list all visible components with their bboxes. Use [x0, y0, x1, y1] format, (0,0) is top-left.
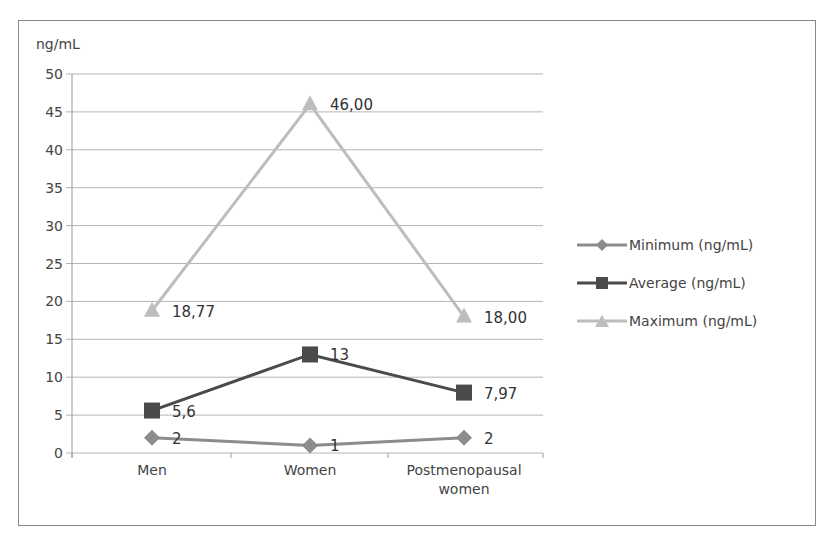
y-tick-label: 0	[54, 445, 63, 461]
square-marker-icon	[456, 385, 472, 401]
legend-item-average: Average (ng/mL)	[577, 264, 757, 302]
y-tick-label: 50	[45, 66, 63, 82]
data-label: 2	[172, 430, 182, 448]
legend-item-minimum: Minimum (ng/mL)	[577, 226, 757, 264]
chart-legend: Minimum (ng/mL) Average (ng/mL) Maximum …	[577, 226, 757, 340]
y-tick-label: 10	[45, 369, 63, 385]
legend-label: Minimum (ng/mL)	[629, 237, 753, 253]
triangle-marker-icon	[577, 314, 627, 328]
y-tick-label: 40	[45, 142, 63, 158]
data-label: 1	[330, 437, 340, 455]
x-tick-women: Women	[270, 461, 350, 480]
square-marker-icon	[302, 346, 318, 362]
y-tick-label: 25	[45, 256, 63, 272]
series-line	[152, 354, 464, 410]
data-label: 2	[484, 430, 494, 448]
data-label: 46,00	[330, 96, 373, 114]
x-tick-postmenopausal-women: Postmenopausal women	[384, 461, 544, 499]
square-marker-icon	[577, 276, 627, 290]
y-tick-label: 45	[45, 104, 63, 120]
data-label: 7,97	[484, 385, 517, 403]
x-tick-men: Men	[112, 461, 192, 480]
legend-label: Average (ng/mL)	[629, 275, 746, 291]
data-label: 13	[330, 346, 349, 364]
legend-label: Maximum (ng/mL)	[629, 313, 757, 329]
y-tick-label: 5	[54, 407, 63, 423]
y-tick-label: 30	[45, 218, 63, 234]
data-label: 18,00	[484, 309, 527, 327]
diamond-marker-icon	[456, 430, 472, 446]
legend-item-maximum: Maximum (ng/mL)	[577, 302, 757, 340]
y-tick-label: 20	[45, 293, 63, 309]
diamond-marker-icon	[577, 238, 627, 252]
triangle-marker-icon	[302, 95, 318, 110]
y-tick-label: 15	[45, 331, 63, 347]
y-tick-label: 35	[45, 180, 63, 196]
diamond-marker-icon	[302, 437, 318, 453]
data-label: 5,6	[172, 403, 196, 421]
x-tick-line2: women	[384, 480, 544, 499]
x-tick-line1: Postmenopausal	[384, 461, 544, 480]
data-label: 18,77	[172, 303, 215, 321]
series-line	[152, 104, 464, 316]
diamond-marker-icon	[144, 430, 160, 446]
square-marker-icon	[144, 403, 160, 419]
